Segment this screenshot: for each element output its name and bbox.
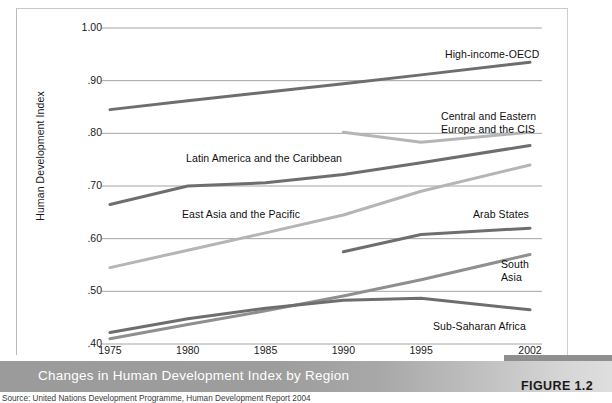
series-label-2: Latin America and the Caribbean [186,152,342,165]
series-label-5: South Asia [501,258,529,283]
series-lines [110,62,530,339]
series-label-6: Sub-Saharan Africa [433,320,526,333]
series-label-3: East Asia and the Pacific [182,208,300,221]
y-axis-title: Human Development Index [34,76,46,236]
series-line-4 [343,228,530,252]
x-tick-label: 2002 [518,345,541,356]
series-line-3 [110,165,530,268]
series-line-0 [110,62,530,109]
x-tick-label: 1975 [98,345,121,356]
series-label-4: Arab States [473,208,529,221]
series-label-0: High-income-OECD [445,48,539,61]
figure-number-tag: FIGURE 1.2 [521,379,593,393]
x-tick-label: 1980 [176,345,199,356]
figure-source: Source: United Nations Development Progr… [2,394,311,403]
y-tick-label: .50 [87,285,102,296]
y-tick-label: .90 [87,75,102,86]
x-tick-label: 1985 [254,345,277,356]
figure-caption: Changes in Human Development Index by Re… [38,368,349,383]
y-tick-label: .70 [87,180,102,191]
y-tick-label: 1.00 [82,22,102,33]
y-tick-label: .80 [87,127,102,138]
series-label-1: Central and Eastern Europe and the CIS [441,110,536,135]
x-tick-label: 1995 [409,345,432,356]
y-tick-label: .60 [87,233,102,244]
figure-page: Human Development Index 1.00.90.80.70.60… [0,0,612,403]
x-tick-label: 1990 [332,345,355,356]
gridlines [102,28,542,344]
